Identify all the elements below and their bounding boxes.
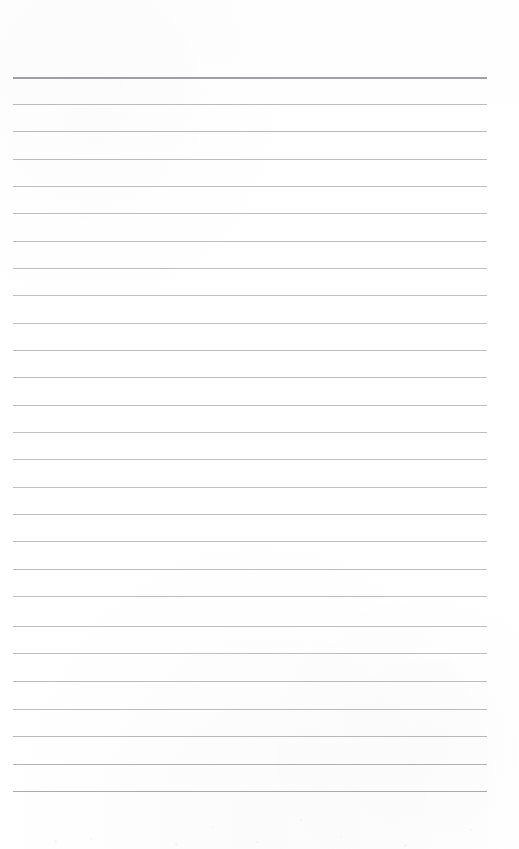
ruled-page [0,0,519,849]
writing-area[interactable] [13,60,487,805]
